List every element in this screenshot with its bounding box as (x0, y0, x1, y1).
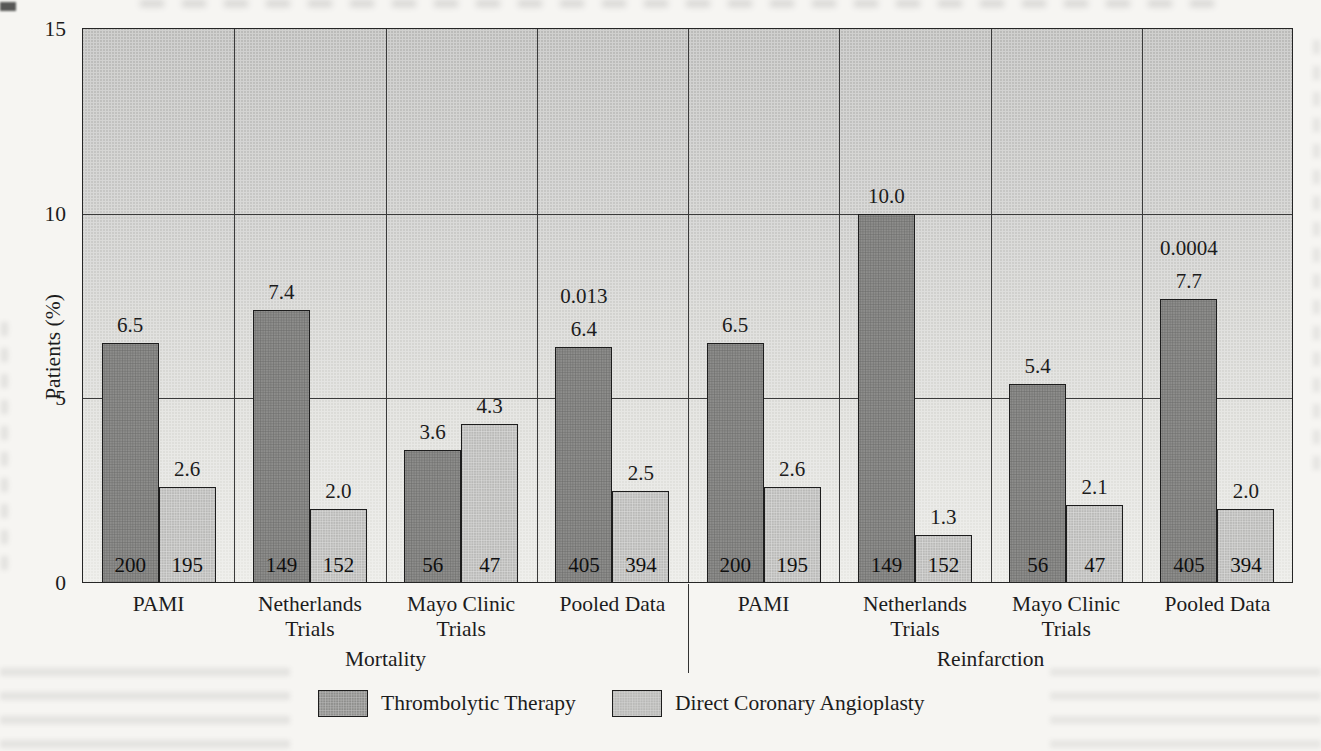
value-label: 5.4 (993, 353, 1083, 379)
legend-item-angioplasty: Direct Coronary Angioplasty (612, 690, 925, 717)
value-label: 4.3 (445, 393, 535, 419)
value-label: 7.4 (236, 279, 326, 305)
scan-artifact-bottom-left (0, 666, 290, 748)
p-value-label: 0.013 (539, 283, 629, 309)
value-label: 2.5 (596, 460, 686, 486)
scan-artifact-bottom-right (1050, 660, 1321, 748)
category-label-line: Netherlands (234, 592, 385, 617)
gridline-x-6 (991, 29, 992, 583)
category-label-line: Trials (386, 617, 537, 642)
category-label: Pooled Data (1142, 592, 1293, 617)
gridline-x-4 (688, 29, 689, 583)
category-label-line: PAMI (688, 592, 839, 617)
category-label: PAMI (688, 592, 839, 617)
y-tick-label-5: 5 (20, 385, 66, 411)
category-label-line: Mayo Clinic (991, 592, 1142, 617)
category-label: Mayo ClinicTrials (991, 592, 1142, 642)
bar-thrombolytic-netherlands-trials (253, 310, 310, 583)
n-label: 394 (1217, 552, 1274, 578)
y-tick-label-15: 15 (20, 16, 66, 42)
legend-label-thrombolytic: Thrombolytic Therapy (381, 691, 576, 716)
value-label: 2.0 (293, 478, 383, 504)
n-label: 200 (707, 552, 764, 578)
scan-artifact-left-margin (1, 320, 8, 570)
gridline-x-1 (234, 29, 235, 583)
category-label: NetherlandsTrials (839, 592, 990, 642)
category-label: NetherlandsTrials (234, 592, 385, 642)
figure-page: Patients (%) 051015 6.52002.61957.41492.… (0, 0, 1321, 751)
gridline-x-7 (1142, 29, 1143, 583)
value-label: 2.0 (1201, 478, 1291, 504)
value-label: 10.0 (841, 183, 931, 209)
value-label: 2.1 (1050, 474, 1140, 500)
legend-item-thrombolytic: Thrombolytic Therapy (318, 690, 576, 717)
scan-artifact-corner-mark (0, 2, 16, 11)
gridline-x-3 (537, 29, 538, 583)
value-label: 2.6 (747, 456, 837, 482)
value-label: 7.7 (1144, 268, 1234, 294)
group-label-mortality: Mortality (83, 647, 688, 672)
scan-artifact-top (140, 0, 1220, 7)
legend-label-angioplasty: Direct Coronary Angioplasty (675, 691, 925, 716)
group-divider-line (688, 584, 689, 673)
y-tick-label-10: 10 (20, 201, 66, 227)
n-label: 152 (915, 552, 972, 578)
gridline-x-5 (839, 29, 840, 583)
category-label-line: Trials (234, 617, 385, 642)
category-label-line: Pooled Data (537, 592, 688, 617)
value-label: 6.5 (690, 312, 780, 338)
value-label: 6.4 (539, 316, 629, 342)
category-label-line: Trials (991, 617, 1142, 642)
n-label: 195 (159, 552, 216, 578)
bar-thrombolytic-pooled-data (1160, 299, 1217, 583)
value-label: 2.6 (142, 456, 232, 482)
group-label-reinfarction: Reinfarction (688, 647, 1293, 672)
category-label-line: PAMI (83, 592, 234, 617)
n-label: 149 (858, 552, 915, 578)
n-label: 200 (102, 552, 159, 578)
n-label: 195 (764, 552, 821, 578)
legend-swatch-angioplasty (612, 690, 662, 717)
n-label: 47 (461, 552, 518, 578)
category-label: PAMI (83, 592, 234, 617)
legend-swatch-thrombolytic (318, 690, 368, 717)
category-label-line: Netherlands (839, 592, 990, 617)
n-label: 152 (310, 552, 367, 578)
value-label: 3.6 (388, 419, 478, 445)
scan-artifact-right-margin (1313, 40, 1320, 470)
value-label: 6.5 (85, 312, 175, 338)
y-tick-label-0: 0 (20, 570, 66, 596)
category-label: Mayo ClinicTrials (386, 592, 537, 642)
n-label: 149 (253, 552, 310, 578)
p-value-label: 0.0004 (1144, 235, 1234, 261)
n-label: 56 (1009, 552, 1066, 578)
gridline-x-2 (386, 29, 387, 583)
value-label: 1.3 (898, 504, 988, 530)
category-label-line: Trials (839, 617, 990, 642)
n-label: 56 (404, 552, 461, 578)
category-label-line: Pooled Data (1142, 592, 1293, 617)
n-label: 47 (1066, 552, 1123, 578)
n-label: 405 (555, 552, 612, 578)
n-label: 394 (612, 552, 669, 578)
n-label: 405 (1160, 552, 1217, 578)
plot-area: 6.52002.61957.41492.01523.6564.3476.40.0… (83, 29, 1293, 583)
category-label: Pooled Data (537, 592, 688, 617)
category-label-line: Mayo Clinic (386, 592, 537, 617)
